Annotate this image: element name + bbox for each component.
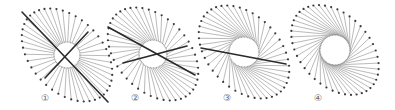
spoke-line (229, 58, 230, 87)
endpoint-dot (222, 81, 224, 83)
endpoint-dot (269, 26, 271, 28)
endpoint-dot (378, 68, 380, 70)
endpoint-dot (124, 8, 126, 10)
endpoint-dot (119, 10, 121, 12)
endpoint-dot (330, 6, 332, 8)
endpoint-dot (288, 71, 290, 73)
central-circle (320, 35, 350, 65)
endpoint-dot (291, 24, 293, 26)
endpoint-dot (30, 66, 32, 68)
spoke-line (251, 65, 289, 66)
endpoint-dot (195, 84, 197, 86)
spoke-line (73, 67, 90, 101)
spoke-line (249, 66, 289, 72)
spoke-line (259, 22, 265, 49)
endpoint-dot (375, 79, 377, 81)
endpoint-dot (203, 15, 205, 17)
endpoint-dot (200, 20, 202, 22)
spoke-line (144, 66, 145, 93)
endpoint-dot (377, 74, 379, 76)
endpoint-dot (148, 8, 150, 10)
endpoint-dot (194, 54, 196, 56)
spoke-line (259, 33, 276, 55)
spoke-line (80, 57, 111, 62)
endpoint-dot (21, 34, 23, 36)
endpoint-dot (161, 14, 163, 16)
spoke-figure-3 (198, 4, 291, 99)
endpoint-dot (173, 23, 175, 25)
endpoint-dot (332, 90, 334, 92)
endpoint-dot (308, 73, 310, 75)
endpoint-dot (29, 14, 31, 16)
endpoint-dot (241, 93, 243, 95)
endpoint-dot (197, 73, 199, 75)
endpoint-dot (314, 78, 316, 80)
endpoint-dot (239, 6, 241, 8)
endpoint-dot (199, 44, 201, 46)
endpoint-dot (312, 4, 314, 6)
endpoint-dot (264, 21, 266, 23)
endpoint-dot (27, 60, 29, 62)
spoke-line (331, 64, 378, 74)
endpoint-dot (234, 90, 236, 92)
endpoint-dot (180, 98, 182, 100)
endpoint-dot (24, 53, 26, 55)
endpoint-dot (318, 4, 320, 6)
endpoint-dot (40, 78, 42, 80)
endpoint-dot (150, 95, 152, 97)
endpoint-dot (286, 82, 288, 84)
endpoint-dot (116, 65, 118, 67)
endpoint-dot (188, 40, 190, 42)
spoke-figure-2 (107, 6, 200, 101)
endpoint-dot (215, 6, 217, 8)
endpoint-dot (220, 5, 222, 7)
spoke-line (31, 59, 54, 67)
endpoint-dot (110, 80, 112, 82)
endpoint-dot (279, 38, 281, 40)
endpoint-dot (356, 93, 358, 95)
endpoint-dot (364, 31, 366, 33)
spoke-line (52, 67, 62, 90)
endpoint-dot (70, 98, 72, 100)
endpoint-dot (154, 11, 156, 13)
endpoint-dot (75, 15, 77, 17)
endpoint-dot (102, 41, 104, 43)
endpoint-dot (110, 61, 112, 63)
endpoint-dot (88, 100, 90, 102)
endpoint-dot (174, 99, 176, 101)
endpoint-dot (302, 8, 304, 10)
spoke-figure-4 (290, 4, 380, 96)
spoke-line (330, 64, 377, 80)
endpoint-dot (81, 19, 83, 21)
endpoint-dot (373, 83, 375, 85)
endpoint-dot (282, 45, 284, 47)
endpoint-dot (276, 93, 278, 95)
endpoint-dot (191, 47, 193, 49)
endpoint-dot (49, 7, 51, 9)
endpoint-dot (22, 47, 24, 49)
endpoint-dot (338, 92, 340, 94)
spoke-line (65, 68, 67, 97)
endpoint-dot (295, 15, 297, 17)
spoke-line (77, 30, 94, 46)
endpoint-dot (348, 15, 350, 17)
central-circle (229, 37, 259, 67)
endpoint-dot (107, 39, 109, 41)
endpoint-dot (135, 6, 137, 8)
endpoint-dot (169, 99, 171, 101)
endpoint-dot (204, 57, 206, 59)
endpoint-dot (287, 58, 289, 60)
endpoint-dot (129, 7, 131, 9)
endpoint-dot (109, 22, 111, 24)
spoke-line (28, 57, 54, 61)
endpoint-dot (245, 9, 247, 11)
endpoint-dot (296, 55, 298, 57)
endpoint-dot (217, 75, 219, 77)
spoke-line (294, 20, 341, 36)
endpoint-dot (103, 93, 105, 95)
endpoint-dot (212, 70, 214, 72)
endpoint-dot (106, 90, 108, 92)
endpoint-dot (226, 4, 228, 6)
endpoint-dot (196, 60, 198, 62)
spoke-line (153, 68, 170, 101)
